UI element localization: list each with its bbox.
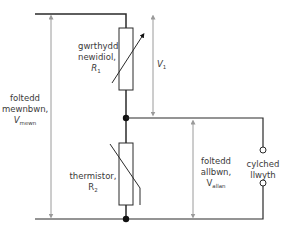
v-out-line1: foltedd: [196, 156, 236, 167]
v-out-symbol: Vallan: [196, 178, 236, 192]
r1-label: gwrthydd newidiol, R1: [78, 41, 114, 77]
load-line2: llwyth: [243, 170, 283, 181]
r1-name-line1: gwrthydd: [78, 41, 114, 52]
v-out-label: foltedd allbwn, Vallan: [196, 156, 236, 192]
r1-symbol: R1: [78, 63, 114, 77]
v-out-line2: allbwn,: [196, 167, 236, 178]
v-in-label: foltedd mewnbwn, Vmewn: [2, 93, 48, 129]
junction-bottom: [123, 216, 129, 222]
r2-label: thermistor, R2: [68, 171, 118, 196]
v1-label: V1: [157, 59, 166, 73]
variable-resistor-r1: [112, 28, 143, 90]
v-in-symbol: Vmewn: [2, 115, 48, 129]
output-wire-top: [126, 118, 263, 147]
v-in-line1: foltedd: [2, 93, 48, 104]
top-wire: [35, 14, 126, 28]
load-line1: cylched: [243, 159, 283, 170]
output-terminal-top: [260, 147, 266, 153]
r1-name-line2: newidiol,: [78, 52, 114, 63]
v-in-line2: mewnbwn,: [2, 104, 48, 115]
r2-symbol: R2: [68, 182, 118, 196]
r2-name-line1: thermistor,: [68, 171, 118, 182]
load-circuit-label: cylched llwyth: [243, 159, 283, 181]
